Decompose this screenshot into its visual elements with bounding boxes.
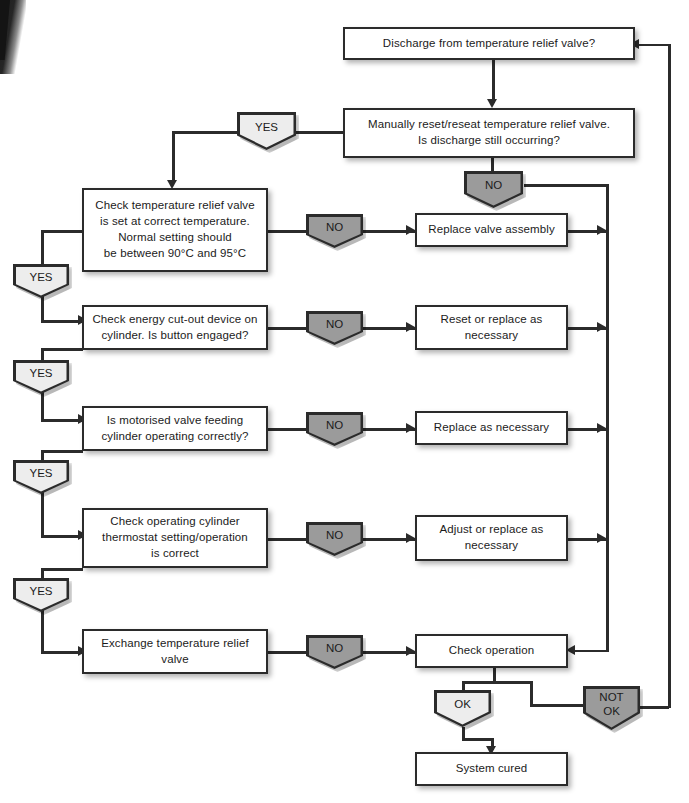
arrow-start-to-reset bbox=[487, 99, 497, 108]
decision-no-reset-label: NO bbox=[485, 179, 502, 200]
arrow-row3-to-bus bbox=[597, 423, 606, 433]
connector-yes3-into-row4 bbox=[41, 535, 83, 538]
decision-yes-4-label: YES bbox=[29, 585, 52, 606]
connector-check-op-down bbox=[493, 668, 496, 682]
node-check-motorised-valve[interactable]: Is motorised valve feeding cylinder oper… bbox=[82, 406, 268, 451]
connector-yes2-into-row3 bbox=[41, 419, 83, 422]
node-manual-reset-label: Manually reset/reseat temperature relief… bbox=[362, 117, 616, 149]
connector-row4-box-to-no bbox=[268, 538, 307, 541]
decision-no-4[interactable]: NO bbox=[306, 522, 363, 556]
decision-yes-3[interactable]: YES bbox=[13, 460, 69, 494]
arrow-row4-to-bus bbox=[597, 533, 606, 543]
decision-yes-3-label: YES bbox=[29, 467, 52, 488]
decision-no-2-label: NO bbox=[326, 318, 343, 339]
connector-no-reset-right bbox=[524, 184, 609, 187]
node-system-cured[interactable]: System cured bbox=[415, 752, 568, 786]
connector-yes1-down bbox=[41, 230, 44, 266]
node-check-temperature-setting-label: Check temperature relief valve is set at… bbox=[89, 198, 260, 261]
connector-yes-left bbox=[172, 131, 237, 134]
decision-yes-2-label: YES bbox=[29, 367, 52, 388]
connector-row1-box-to-no bbox=[268, 230, 307, 233]
connector-row5-box-to-no bbox=[268, 651, 307, 654]
decision-yes-top[interactable]: YES bbox=[237, 112, 296, 150]
connector-yes1-into-row2 bbox=[41, 320, 83, 323]
node-replace-as-necessary[interactable]: Replace as necessary bbox=[415, 411, 568, 445]
node-check-cylinder-thermostat[interactable]: Check operating cylinder thermostat sett… bbox=[82, 508, 268, 568]
connector-branch-to-notok bbox=[530, 704, 584, 707]
arrow-row3-into-action bbox=[406, 423, 415, 433]
arrow-row1-into-action bbox=[406, 225, 415, 235]
node-replace-valve-assembly-label: Replace valve assembly bbox=[422, 222, 561, 238]
node-reset-or-replace[interactable]: Reset or replace as necessary bbox=[415, 305, 568, 350]
arrow-row2-into-action bbox=[406, 322, 415, 332]
connector-yes-down bbox=[172, 131, 175, 183]
node-adjust-or-replace-label: Adjust or replace as necessary bbox=[434, 522, 550, 554]
node-exchange-relief-valve-label: Exchange temperature relief valve bbox=[95, 636, 255, 668]
node-check-motorised-valve-label: Is motorised valve feeding cylinder oper… bbox=[95, 413, 254, 445]
decision-no-1-label: NO bbox=[326, 221, 343, 242]
connector-outer-bus-to-start bbox=[636, 44, 669, 47]
decision-ok-label: OK bbox=[454, 698, 471, 719]
connector-inner-bus-to-check-operation bbox=[572, 650, 609, 653]
connector-row4-to-yes4 bbox=[41, 568, 83, 571]
node-start-label: Discharge from temperature relief valve? bbox=[377, 36, 601, 52]
node-replace-valve-assembly[interactable]: Replace valve assembly bbox=[415, 213, 568, 247]
connector-row1-to-yes1 bbox=[41, 230, 83, 233]
node-adjust-or-replace[interactable]: Adjust or replace as necessary bbox=[415, 515, 568, 561]
connector-row2-box-to-no bbox=[268, 327, 307, 330]
node-reset-or-replace-label: Reset or replace as necessary bbox=[435, 312, 549, 344]
decision-no-1[interactable]: NO bbox=[306, 214, 363, 248]
decision-yes-1-label: YES bbox=[29, 271, 52, 292]
connector-row3-box-to-no bbox=[268, 428, 307, 431]
connector-yes3-to-row4 bbox=[41, 491, 44, 537]
connector-yes4-to-row5 bbox=[41, 609, 44, 653]
node-system-cured-label: System cured bbox=[450, 761, 534, 777]
node-check-temperature-setting[interactable]: Check temperature relief valve is set at… bbox=[82, 188, 268, 272]
decision-no-reset[interactable]: NO bbox=[464, 171, 523, 208]
node-check-energy-cutout-label: Check energy cut-out device on cylinder.… bbox=[86, 312, 263, 344]
inner-return-bus bbox=[606, 184, 609, 652]
node-exchange-relief-valve[interactable]: Exchange temperature relief valve bbox=[82, 629, 268, 674]
flowchart-canvas: Discharge from temperature relief valve?… bbox=[0, 0, 689, 803]
outer-return-bus bbox=[668, 44, 671, 708]
decision-no-4-label: NO bbox=[326, 529, 343, 550]
decision-no-5-label: NO bbox=[326, 642, 343, 663]
connector-start-to-reset bbox=[492, 60, 495, 103]
decision-ok[interactable]: OK bbox=[434, 690, 491, 727]
connector-yes4-into-row5 bbox=[41, 651, 83, 654]
decision-no-5[interactable]: NO bbox=[306, 635, 363, 669]
decision-yes-4[interactable]: YES bbox=[13, 578, 69, 612]
arrow-row5-into-check-operation bbox=[406, 646, 415, 656]
arrow-row2-to-bus bbox=[597, 322, 606, 332]
connector-branch-notok-down bbox=[530, 681, 533, 706]
connector-row2-to-yes2 bbox=[41, 348, 83, 351]
node-manual-reset[interactable]: Manually reset/reseat temperature relief… bbox=[343, 108, 635, 158]
decision-yes-2[interactable]: YES bbox=[13, 360, 69, 394]
decision-not-ok[interactable]: NOT OK bbox=[583, 686, 640, 730]
arrow-row1-to-bus bbox=[597, 225, 606, 235]
node-check-operation[interactable]: Check operation bbox=[415, 634, 568, 668]
decision-no-3[interactable]: NO bbox=[306, 412, 363, 446]
connector-row3-to-yes3 bbox=[41, 450, 83, 453]
decision-yes-top-label: YES bbox=[255, 121, 278, 142]
node-check-cylinder-thermostat-label: Check operating cylinder thermostat sett… bbox=[96, 514, 254, 562]
node-check-energy-cutout[interactable]: Check energy cut-out device on cylinder.… bbox=[82, 305, 268, 350]
arrow-row4-into-action bbox=[406, 533, 415, 543]
connector-reset-to-yes bbox=[296, 131, 343, 134]
node-replace-as-necessary-label: Replace as necessary bbox=[428, 420, 555, 436]
decision-no-3-label: NO bbox=[326, 419, 343, 440]
connector-check-op-branch bbox=[462, 681, 532, 684]
connector-ok-to-cured bbox=[462, 738, 494, 741]
node-check-operation-label: Check operation bbox=[443, 643, 540, 659]
decision-not-ok-label: NOT OK bbox=[599, 691, 623, 726]
decision-yes-1[interactable]: YES bbox=[13, 264, 69, 298]
decision-no-2[interactable]: NO bbox=[306, 311, 363, 345]
node-start[interactable]: Discharge from temperature relief valve? bbox=[343, 27, 635, 60]
